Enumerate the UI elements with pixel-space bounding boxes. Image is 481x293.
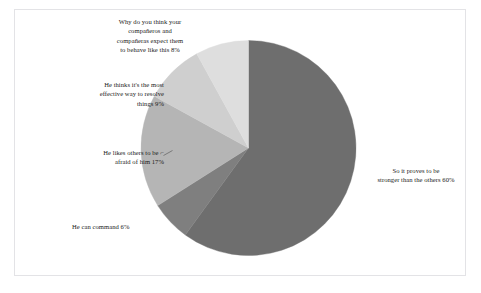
pie-label-most-effective-way: He thinks it's the most effective way to… xyxy=(42,80,164,108)
pie-label-he-can-command: He can command 6% xyxy=(72,222,176,231)
pie-label-afraid-of-him: He likes others to be ⌐ afraid of him 17… xyxy=(38,148,164,167)
pie-label-stronger-than-others: So it proves to be stronger than the oth… xyxy=(358,166,474,185)
pie-label-expect-them-to-behave: Why do you think your compañeros and com… xyxy=(75,17,225,55)
pie-chart-svg xyxy=(0,0,481,293)
pie-chart-figure: Why do you think your compañeros and com… xyxy=(0,0,481,293)
chart-plot-area: Why do you think your compañeros and com… xyxy=(0,0,481,293)
